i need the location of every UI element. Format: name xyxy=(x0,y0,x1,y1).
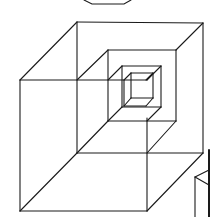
cube-edge xyxy=(147,107,161,121)
top-partial-hexagon xyxy=(84,0,131,4)
cube-edge xyxy=(124,73,131,80)
object-edge xyxy=(195,170,209,177)
cube-edge xyxy=(108,66,122,80)
nested-cubes-diagram: Nested wireframe cubes xyxy=(0,0,211,217)
right-partial-object xyxy=(195,150,209,217)
cube-edge xyxy=(108,107,122,121)
cube-edge xyxy=(20,153,77,211)
cube-edge xyxy=(77,121,108,153)
cube-edge xyxy=(77,22,203,23)
diagram-svg xyxy=(0,0,211,217)
cube-edge xyxy=(147,121,176,153)
cube-edge xyxy=(124,98,131,106)
cube-edge xyxy=(146,98,153,106)
cube-edge xyxy=(77,50,108,80)
hexagon-edge xyxy=(84,0,131,4)
cube-edge xyxy=(20,22,77,80)
cube-edge xyxy=(176,23,203,50)
object-edge xyxy=(195,177,209,185)
cube-edge xyxy=(146,73,153,80)
inner-cube xyxy=(124,73,153,106)
